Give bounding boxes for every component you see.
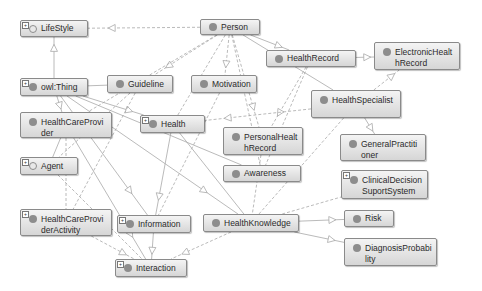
class-circle-icon bbox=[350, 176, 358, 184]
arrowhead-icon bbox=[224, 114, 231, 121]
arrowhead-icon bbox=[156, 193, 163, 201]
class-hollow-circle-icon bbox=[29, 25, 37, 33]
arrowhead-icon bbox=[366, 123, 373, 131]
arrowhead-icon bbox=[327, 236, 335, 243]
node-label: Health bbox=[161, 119, 186, 130]
class-node-electronichealthrecord[interactable]: ElectronicHealthRecord bbox=[374, 42, 460, 70]
edge-owlthing-guideline bbox=[88, 85, 107, 86]
edge-person-lifestyle bbox=[88, 27, 200, 28]
arrowhead-icon bbox=[119, 248, 127, 254]
arrowhead-icon bbox=[387, 74, 395, 81]
class-circle-icon bbox=[126, 220, 134, 228]
class-node-person[interactable]: Person bbox=[200, 19, 260, 35]
class-node-clinicaldecisionsupportsystem[interactable]: +ClinicalDecisionSuportSystem bbox=[341, 170, 428, 199]
arrowhead-icon bbox=[249, 103, 256, 111]
expand-icon[interactable]: + bbox=[142, 117, 149, 124]
expand-icon[interactable]: + bbox=[117, 261, 124, 268]
class-circle-icon bbox=[116, 80, 124, 88]
arrowhead-icon bbox=[108, 24, 115, 31]
class-node-owlthing[interactable]: +owl:Thing bbox=[20, 78, 88, 96]
class-circle-icon bbox=[275, 55, 283, 63]
class-node-diagnosisprobability[interactable]: DiagnosisProbability bbox=[344, 238, 437, 266]
class-circle-icon bbox=[349, 140, 357, 148]
arrowhead-icon bbox=[199, 186, 207, 193]
arrowhead-icon bbox=[56, 101, 63, 109]
node-label: HealthRecord bbox=[287, 53, 339, 64]
class-node-awareness[interactable]: Awareness bbox=[223, 165, 301, 182]
ontology-graph-canvas[interactable]: +LifeStylePersonElectronicHealthRecordHe… bbox=[0, 0, 482, 291]
edge-healthrecord-personalhealthrecord bbox=[271, 67, 306, 127]
node-label: HealthCareProviderActivity bbox=[41, 214, 107, 236]
class-node-health[interactable]: +Health bbox=[140, 115, 205, 133]
edge-healthspecialist-health bbox=[205, 109, 311, 121]
node-label: Interaction bbox=[136, 263, 176, 274]
arrowhead-icon bbox=[364, 54, 371, 61]
class-circle-icon bbox=[209, 23, 217, 31]
expand-icon[interactable]: + bbox=[22, 211, 29, 218]
node-label: ElectronicHealthRecord bbox=[395, 47, 455, 69]
class-circle-icon bbox=[29, 83, 37, 91]
class-circle-icon bbox=[232, 170, 240, 178]
class-node-healthknowledge[interactable]: HealthKnowledge bbox=[203, 214, 299, 232]
class-circle-icon bbox=[149, 120, 157, 128]
edge-person-healthrecord bbox=[251, 35, 290, 50]
node-label: PersonalHealthRecord bbox=[244, 132, 298, 154]
class-node-motivation[interactable]: Motivation bbox=[191, 75, 257, 93]
edge-guideline-healthcareprovideractivity bbox=[73, 93, 135, 209]
class-circle-icon bbox=[320, 96, 328, 104]
node-label: LifeStyle bbox=[41, 23, 74, 34]
node-label: Guideline bbox=[128, 79, 164, 90]
class-circle-icon bbox=[124, 264, 132, 272]
arrowhead-icon bbox=[182, 248, 190, 254]
edge-healthknowledge-diagnosisprobability bbox=[294, 232, 344, 242]
expand-icon[interactable]: + bbox=[22, 22, 29, 29]
class-node-healthspecialist[interactable]: HealthSpecialist bbox=[311, 90, 401, 118]
class-node-healthrecord[interactable]: HealthRecord bbox=[266, 50, 356, 67]
class-circle-icon bbox=[212, 219, 220, 227]
class-circle-icon bbox=[353, 215, 361, 223]
edge-healthknowledge-interaction bbox=[171, 232, 231, 259]
class-circle-icon bbox=[200, 80, 208, 88]
node-label: GeneralPractitioner bbox=[361, 139, 421, 161]
class-node-risk[interactable]: Risk bbox=[344, 210, 394, 227]
node-label: Information bbox=[138, 219, 181, 230]
node-label: HealthCareProvider bbox=[41, 117, 107, 139]
expand-icon[interactable]: + bbox=[343, 172, 350, 179]
arrowhead-icon bbox=[149, 247, 156, 254]
class-node-healthcareprovideractivity[interactable]: +HealthCareProviderActivity bbox=[20, 209, 112, 236]
edge-person-healthcareprovider bbox=[88, 35, 217, 112]
expand-icon[interactable]: + bbox=[22, 80, 29, 87]
edge-healthcareprovider-interaction bbox=[74, 138, 146, 259]
edge-healthcareprovideractivity-interaction bbox=[91, 236, 134, 259]
node-label: Risk bbox=[365, 213, 382, 224]
arrowhead-icon bbox=[329, 217, 336, 224]
node-label: Agent bbox=[41, 161, 63, 172]
edge-motivation-information bbox=[159, 93, 220, 215]
class-node-lifestyle[interactable]: +LifeStyle bbox=[20, 20, 88, 37]
class-node-agent[interactable]: +Agent bbox=[20, 157, 78, 175]
class-node-information[interactable]: +Information bbox=[117, 215, 191, 233]
class-node-generalpractitioner[interactable]: GeneralPractitioner bbox=[340, 134, 426, 161]
class-node-healthcareprovider[interactable]: HealthCareProvider bbox=[20, 112, 112, 138]
class-circle-icon bbox=[29, 118, 37, 126]
node-label: Person bbox=[221, 22, 248, 33]
edge-healthcareprovider-agent bbox=[53, 138, 61, 157]
arrowhead-icon bbox=[274, 42, 282, 49]
node-label: Awareness bbox=[244, 168, 286, 179]
node-label: DiagnosisProbability bbox=[365, 243, 432, 265]
expand-icon[interactable]: + bbox=[119, 217, 126, 224]
node-label: HealthSpecialist bbox=[332, 95, 393, 106]
class-node-personalhealthrecord[interactable]: PersonalHealthRecord bbox=[223, 127, 303, 155]
node-label: HealthKnowledge bbox=[224, 218, 291, 229]
arrowhead-icon bbox=[125, 106, 133, 113]
node-label: ClinicalDecisionSuportSystem bbox=[362, 175, 423, 197]
arrowhead-icon bbox=[51, 44, 58, 51]
class-node-guideline[interactable]: Guideline bbox=[107, 75, 173, 93]
edge-healthspecialist-electronichealthrecord bbox=[374, 70, 399, 90]
class-circle-icon bbox=[29, 215, 37, 223]
class-node-interaction[interactable]: +Interaction bbox=[115, 259, 187, 277]
class-circle-icon bbox=[383, 48, 391, 56]
edge-person-guideline bbox=[154, 35, 217, 75]
expand-icon[interactable]: + bbox=[22, 159, 29, 166]
arrowhead-icon bbox=[223, 60, 230, 67]
